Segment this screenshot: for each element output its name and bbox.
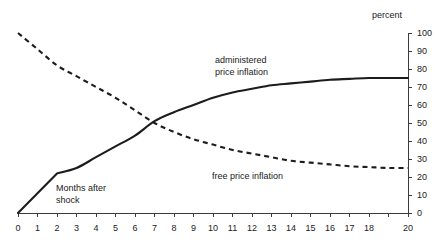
x-axis-tick-label: 6 — [132, 223, 137, 233]
x-axis-tick-label: 12 — [247, 223, 257, 233]
x-axis-tick-label: 17 — [344, 223, 354, 233]
x-axis-tick-label: 4 — [93, 223, 98, 233]
x-axis-ticks — [18, 213, 408, 217]
price-inflation-line-chart: 012345678910111213141516171820 010203040… — [0, 0, 437, 248]
administered-price-inflation-label-line2: price inflation — [215, 67, 268, 77]
x-axis-tick-label: 1 — [35, 223, 40, 233]
x-axis-tick-label: 10 — [208, 223, 218, 233]
x-axis-tick-label: 2 — [54, 223, 59, 233]
x-axis-tick-label: 18 — [364, 223, 374, 233]
x-axis-tick-label: 20 — [403, 223, 413, 233]
chart-container: 012345678910111213141516171820 010203040… — [0, 0, 437, 248]
chart-background — [0, 0, 437, 248]
x-axis-tick-labels: 012345678910111213141516171820 — [15, 223, 413, 233]
y-axis-tick-label: 40 — [417, 136, 427, 146]
x-axis-tick-label: 7 — [152, 223, 157, 233]
y-axis-tick-label: 50 — [417, 118, 427, 128]
x-axis-tick-label: 8 — [171, 223, 176, 233]
x-axis-tick-label: 14 — [286, 223, 296, 233]
y-axis-tick-label: 80 — [417, 64, 427, 74]
administered-price-inflation-label-line1: administered — [215, 55, 267, 65]
x-axis-tick-label: 16 — [325, 223, 335, 233]
y-axis-tick-label: 60 — [417, 100, 427, 110]
months-after-shock-label-line1: Months after — [56, 183, 106, 193]
y-axis-tick-label: 0 — [417, 208, 422, 218]
x-axis-tick-label: 3 — [74, 223, 79, 233]
y-axis-tick-label: 100 — [417, 28, 432, 38]
x-axis-tick-label: 15 — [305, 223, 315, 233]
y-axis-tick-label: 10 — [417, 190, 427, 200]
y-axis-unit-label: percent — [372, 10, 403, 20]
x-axis-tick-label: 5 — [113, 223, 118, 233]
free-price-inflation-label: free price inflation — [212, 171, 283, 181]
y-axis-tick-label: 20 — [417, 172, 427, 182]
months-after-shock-label-line2: shock — [56, 195, 80, 205]
x-axis-tick-label: 0 — [15, 223, 20, 233]
x-axis-tick-label: 11 — [228, 223, 237, 233]
y-axis-tick-label: 30 — [417, 154, 427, 164]
y-axis-tick-label: 70 — [417, 82, 427, 92]
y-axis-tick-label: 90 — [417, 46, 427, 56]
x-axis-tick-label: 9 — [191, 223, 196, 233]
x-axis-tick-label: 13 — [266, 223, 276, 233]
